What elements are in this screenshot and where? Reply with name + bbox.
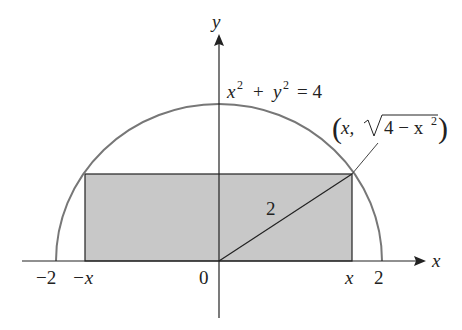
svg-text:): ) <box>438 111 448 145</box>
point-label: ( x, 4 − x 2 ) <box>332 111 448 145</box>
hypotenuse-label: 2 <box>266 198 276 219</box>
tick-pos-x: x <box>344 267 354 288</box>
svg-text:2: 2 <box>283 78 289 92</box>
tick-neg-two: −2 <box>36 267 56 288</box>
svg-text:= 4: = 4 <box>297 81 322 102</box>
semicircle-rectangle-diagram: y x −2 −x 0 x 2 2 x 2 + y 2 = 4 ( x, 4 −… <box>0 0 462 330</box>
svg-text:2: 2 <box>431 114 437 128</box>
circle-equation: x 2 + y 2 = 4 <box>226 78 322 102</box>
origin-label: 0 <box>199 267 209 288</box>
svg-text:x,: x, <box>340 117 354 138</box>
point-leader-line <box>352 143 378 174</box>
svg-text:x: x <box>226 81 236 102</box>
svg-text:4 − x: 4 − x <box>384 117 424 138</box>
y-axis-label: y <box>210 11 221 32</box>
svg-text:+: + <box>253 81 264 102</box>
tick-neg-x: −x <box>72 267 94 288</box>
svg-text:2: 2 <box>237 78 243 92</box>
x-axis-label: x <box>431 250 441 271</box>
svg-text:y: y <box>271 81 282 102</box>
tick-pos-two: 2 <box>374 267 384 288</box>
